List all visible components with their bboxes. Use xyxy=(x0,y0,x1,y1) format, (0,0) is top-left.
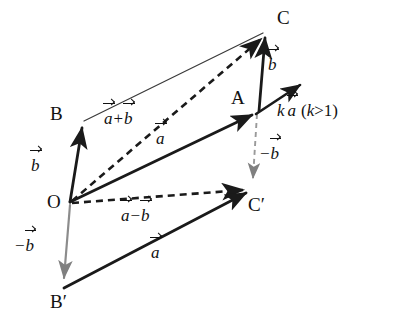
prime-mark-B: ′ xyxy=(63,291,67,312)
operator-minus: − xyxy=(259,144,271,163)
vector-glyph-a: a xyxy=(121,205,130,224)
vector-O-to-Bprime xyxy=(64,205,70,278)
vector-label-a-plus-b: a+b xyxy=(104,108,133,127)
point-label-B-prime-text: B xyxy=(50,291,63,312)
vector-glyph-b: b xyxy=(124,108,133,127)
vector-label-a-minus-b: a−b xyxy=(121,205,150,224)
vector-glyph-a: a xyxy=(288,100,297,119)
paren-close: ) xyxy=(332,101,338,120)
vector-glyph-a: a xyxy=(104,108,113,127)
vector-label-b-left: b xyxy=(31,155,40,174)
point-label-O-text: O xyxy=(47,191,61,212)
operator-plus: + xyxy=(113,109,125,128)
vector-label-k-a-condition: ka(k>1) xyxy=(277,100,338,119)
point-label-O: O xyxy=(47,192,61,211)
point-label-C-prime: C′ xyxy=(248,195,265,214)
vector-glyph-a: a xyxy=(156,128,165,147)
vector-Bprime-to-Cprime xyxy=(64,193,246,288)
vector-O-to-Cprime xyxy=(72,190,243,203)
vector-figure-svg xyxy=(0,0,395,332)
vector-A-to-C xyxy=(259,38,265,111)
point-label-A-text: A xyxy=(231,87,245,108)
vector-label-a-upper: a xyxy=(156,128,165,147)
operator-minus: − xyxy=(14,236,26,255)
vector-glyph-b: b xyxy=(31,155,40,174)
point-label-A: A xyxy=(231,88,245,107)
vector-diagram: C A B O B′ C′ b b a+b a a−b a −b xyxy=(0,0,395,332)
point-label-C-text: C xyxy=(277,7,290,28)
vector-O-to-C xyxy=(72,39,261,201)
vector-O-to-B xyxy=(70,128,82,202)
vector-glyph-a: a xyxy=(151,242,160,261)
vector-glyph-b: b xyxy=(271,143,280,162)
point-label-B-text: B xyxy=(50,103,63,124)
point-label-C: C xyxy=(277,8,290,27)
vector-label-minus-b-right: −b xyxy=(259,143,279,162)
scalar-k: k xyxy=(277,101,285,120)
operator-minus: − xyxy=(130,206,142,225)
vector-A-to-Cprime xyxy=(253,114,257,178)
point-label-B: B xyxy=(50,104,63,123)
point-label-C-prime-text: C xyxy=(248,194,261,215)
vector-label-a-lower: a xyxy=(151,242,160,261)
vector-glyph-b: b xyxy=(141,205,150,224)
point-label-B-prime: B′ xyxy=(50,292,67,311)
vector-label-minus-b-left: −b xyxy=(14,235,34,254)
prime-mark-C: ′ xyxy=(261,194,265,215)
vector-glyph-b: b xyxy=(26,235,35,254)
vector-label-b-right: b xyxy=(268,54,277,73)
operator-greater-than: > xyxy=(314,101,324,120)
vector-glyph-b: b xyxy=(268,54,277,73)
